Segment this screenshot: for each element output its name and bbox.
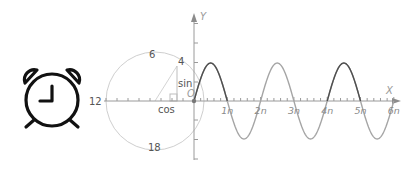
x-tick-labels: 1n2n3n4n5n6n	[221, 105, 400, 116]
origin-label: O	[187, 88, 195, 99]
circle-label-top: 6	[149, 49, 155, 60]
cos-label: cos	[158, 104, 175, 115]
y-axis-arrow-icon	[191, 13, 197, 22]
point-label: 4	[178, 56, 184, 67]
x-tick-label: 1n	[221, 105, 233, 116]
x-tick-label: 5n	[355, 105, 367, 116]
circle-label-bottom: 18	[148, 142, 161, 153]
circle-label-left: 12	[89, 96, 102, 107]
x-axis-label: X	[385, 85, 394, 96]
x-axis	[104, 97, 398, 101]
right-angle-marker	[170, 94, 177, 101]
y-axis-label: Y	[200, 11, 207, 22]
x-tick-label: 2n	[255, 105, 267, 116]
x-tick-label: 6n	[388, 105, 400, 116]
origin-point	[192, 99, 196, 103]
scene: 6 4 sin cos 12 18 O Y X 1n2n3n4n5n6n	[0, 0, 420, 170]
alarm-clock-icon	[24, 70, 79, 127]
radius-line	[155, 66, 177, 101]
x-tick-label: 3n	[288, 105, 300, 116]
x-tick-label: 4n	[321, 105, 333, 116]
